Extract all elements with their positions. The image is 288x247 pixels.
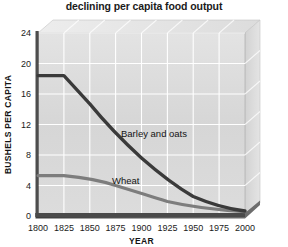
y-axis-line bbox=[36, 31, 39, 217]
x-tick-1825: 1825 bbox=[54, 223, 74, 233]
x-tick-1900: 1900 bbox=[131, 223, 151, 233]
y-axis-title: BUSHELS PER CAPITA bbox=[3, 75, 13, 174]
chart-figure: declining per capita food output bbox=[0, 0, 288, 247]
series-label-barley-and-oats: Barley and oats bbox=[121, 128, 187, 139]
y-tick-16: 16 bbox=[21, 89, 31, 99]
x-tick-1950: 1950 bbox=[183, 223, 203, 233]
x-tick-1925: 1925 bbox=[157, 223, 177, 233]
plot-box bbox=[38, 20, 260, 216]
x-axis-tick-labels: 1800 1825 1850 1875 1900 1925 1950 1975 … bbox=[28, 223, 255, 233]
series-label-wheat: Wheat bbox=[112, 175, 140, 186]
x-tick-2000: 2000 bbox=[235, 223, 255, 233]
y-tick-8: 8 bbox=[26, 150, 31, 160]
x-axis-title: YEAR bbox=[129, 236, 154, 246]
x-axis-line bbox=[36, 213, 246, 217]
y-tick-12: 12 bbox=[21, 120, 31, 130]
y-axis-tick-labels: 24 20 16 12 8 4 0 bbox=[21, 28, 31, 221]
y-tick-4: 4 bbox=[26, 181, 31, 191]
y-tick-20: 20 bbox=[21, 59, 31, 69]
x-tick-1975: 1975 bbox=[209, 223, 229, 233]
y-tick-24: 24 bbox=[21, 28, 31, 38]
x-tick-1875: 1875 bbox=[106, 223, 126, 233]
x-tick-1850: 1850 bbox=[80, 223, 100, 233]
chart-canvas: 24 20 16 12 8 4 0 1800 1825 1850 1875 19… bbox=[0, 0, 288, 247]
y-tick-0: 0 bbox=[26, 211, 31, 221]
x-tick-1800: 1800 bbox=[28, 223, 48, 233]
